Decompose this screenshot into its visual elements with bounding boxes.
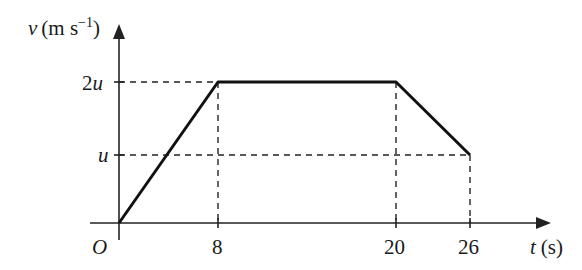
tick-u: u [98, 143, 109, 167]
velocity-line [119, 82, 470, 223]
x-axis-label: t(s) [530, 235, 563, 259]
axes [90, 34, 540, 240]
tick-26: 26 [458, 235, 479, 259]
tick-8: 8 [212, 235, 223, 259]
origin-label: O [92, 235, 107, 259]
x-axis-arrow-icon [536, 217, 551, 229]
y-axis-arrow-icon [113, 24, 125, 39]
tick-2u: 2u [82, 71, 103, 95]
velocity-time-graph: v(m s−1) 2u u O 8 20 26 t(s) [0, 0, 582, 270]
y-axis-label: v(m s−1) [28, 15, 100, 40]
tick-20: 20 [384, 235, 405, 259]
